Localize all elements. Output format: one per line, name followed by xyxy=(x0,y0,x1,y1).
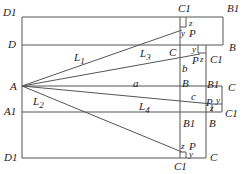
label-mid-C: C xyxy=(169,47,176,58)
label-A1: A1 xyxy=(4,106,16,117)
label-top-B1: B1 xyxy=(227,3,239,14)
label-C-right: C xyxy=(228,82,235,93)
label-mid-z: z xyxy=(200,55,204,64)
label-B-lower: B xyxy=(182,78,189,89)
label-top-P: P xyxy=(189,28,196,39)
diagram-lines xyxy=(0,0,242,174)
label-top-y: y xyxy=(181,29,185,38)
label-L3: L3 xyxy=(140,48,151,62)
label-D1-top: D1 xyxy=(3,7,16,18)
label-B1-right: B1 xyxy=(207,79,219,90)
label-B-right: B xyxy=(229,42,236,53)
label-bot-C1: C1 xyxy=(174,161,187,172)
label-bot-C: C xyxy=(210,152,217,163)
label-low-z: z xyxy=(210,104,214,113)
label-L2: L2 xyxy=(33,96,44,110)
label-A: A xyxy=(10,81,17,92)
diagram-canvas: D1 D A A1 D1 L1 L2 L3 L4 a b c C1 B1 z y… xyxy=(0,0,242,174)
label-B1-lower: B1 xyxy=(183,118,195,129)
label-mid-P: P xyxy=(192,55,199,66)
label-a: a xyxy=(133,78,139,89)
label-mid-C1: C1 xyxy=(210,54,223,65)
label-top-C1: C1 xyxy=(178,3,191,14)
label-c: c xyxy=(191,91,196,102)
label-low-y: y xyxy=(216,96,220,105)
label-bot-z: z xyxy=(181,142,185,151)
label-low-C1: C1 xyxy=(225,108,238,119)
label-D1-bottom: D1 xyxy=(4,152,17,163)
label-B-lower2: B xyxy=(209,118,216,129)
label-mid-y: y xyxy=(192,45,196,54)
label-D: D xyxy=(8,39,16,50)
label-b: b xyxy=(182,63,188,74)
label-L4: L4 xyxy=(139,101,150,115)
label-L1: L1 xyxy=(74,52,85,66)
label-bot-y: y xyxy=(189,150,193,159)
